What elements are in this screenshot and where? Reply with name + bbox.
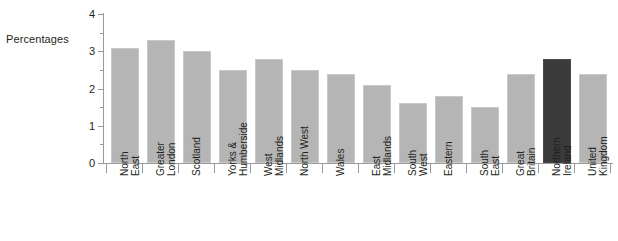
y-tick-mark: [98, 126, 104, 127]
x-axis-label-line: United: [587, 147, 598, 176]
x-axis-label-line: East: [490, 156, 501, 176]
x-tick-mark: [322, 164, 323, 173]
x-tick-mark: [250, 164, 251, 173]
y-tick-minor-mark: [100, 107, 104, 108]
x-axis-label-line: East: [130, 156, 141, 176]
x-tick-mark: [538, 164, 539, 173]
x-axis-label-line: South: [479, 150, 490, 176]
y-tick-label: 4: [89, 9, 95, 20]
x-axis-label-line: South: [407, 150, 418, 176]
x-axis-label-line: Wales: [335, 149, 346, 176]
x-axis-label-line: West: [418, 153, 429, 176]
plot-area: 01234: [104, 14, 612, 163]
x-axis-label-line: Great: [515, 151, 526, 176]
y-tick-label: 1: [89, 120, 95, 131]
x-axis-label-line: Ireland: [562, 145, 573, 176]
y-axis-title: Percentages: [6, 33, 69, 45]
x-tick-mark: [430, 164, 431, 173]
x-axis-label-line: Midlands: [274, 136, 285, 176]
x-tick-mark: [214, 164, 215, 173]
y-tick-mark: [98, 51, 104, 52]
x-tick-mark: [286, 164, 287, 173]
x-tick-mark: [358, 164, 359, 173]
x-axis-label-line: Eastern: [443, 142, 454, 176]
x-tick-mark: [574, 164, 575, 173]
y-tick-label: 3: [89, 46, 95, 57]
x-axis-label-line: Midlands: [382, 136, 393, 176]
x-axis-label-line: Humberside: [238, 122, 249, 176]
x-axis-label-line: Northern: [551, 137, 562, 176]
x-axis-label-line: Britain: [526, 148, 537, 176]
x-tick-mark: [142, 164, 143, 173]
y-tick-minor-mark: [100, 144, 104, 145]
x-axis-label-line: North: [119, 152, 130, 176]
x-tick-mark: [394, 164, 395, 173]
x-tick-mark: [502, 164, 503, 173]
x-tick-mark: [466, 164, 467, 173]
x-axis-label-line: London: [166, 143, 177, 176]
y-tick-minor-mark: [100, 33, 104, 34]
x-axis-label-line: Greater: [155, 142, 166, 176]
y-tick-minor-mark: [100, 70, 104, 71]
x-tick-mark: [106, 164, 107, 173]
x-axis-label-line: East: [371, 156, 382, 176]
y-tick-label: 2: [89, 83, 95, 94]
y-tick-label: 0: [89, 158, 95, 169]
y-tick-mark: [98, 14, 104, 15]
x-axis-label-line: Scotland: [191, 137, 202, 176]
bar: [111, 48, 139, 163]
x-axis-label-line: West: [263, 153, 274, 176]
y-tick-mark: [98, 89, 104, 90]
x-axis-label-line: North West: [299, 126, 310, 176]
x-tick-mark: [178, 164, 179, 173]
x-tick-mark: [610, 164, 611, 173]
x-axis-label-line: Yorks &: [227, 142, 238, 176]
x-axis-label-line: Kingdom: [598, 137, 609, 176]
y-tick-mark: [98, 163, 104, 164]
bar-chart: Percentages 01234 NorthEastGreaterLondon…: [0, 0, 618, 241]
